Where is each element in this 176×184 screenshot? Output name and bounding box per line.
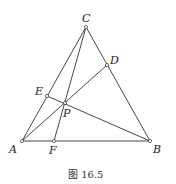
geometry-figure: C D E P A F B 图 16.5 [0,0,176,184]
label-D: D [109,54,119,67]
point-D [105,63,108,66]
point-C [84,25,87,28]
figure-caption: 图 16.5 [68,169,103,180]
label-C: C [82,12,91,25]
point-F [52,139,55,142]
point-P [63,101,66,104]
point-B [148,139,151,142]
label-B: B [152,143,161,156]
segment-BC [86,27,150,141]
segment-CA [22,27,86,141]
point-E [45,94,48,97]
label-E: E [34,85,43,98]
label-A: A [8,143,17,156]
point-A [20,139,23,142]
segments [22,27,150,141]
label-F: F [48,144,57,157]
label-P: P [62,107,71,120]
segment-CF [54,27,86,141]
